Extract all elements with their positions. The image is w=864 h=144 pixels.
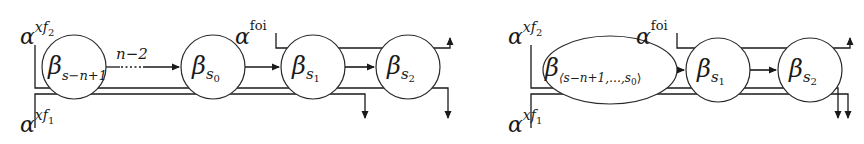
alpha-xf2-label: αxf2 xyxy=(20,19,54,49)
left-diagram: αxf2 αxf1 αfoi n−2 βs−n+1 βs0 βs1 βs2 xyxy=(20,18,450,137)
node-beta-s-n+1-to-s0 xyxy=(543,36,677,104)
alpha-foi-label: αfoi xyxy=(235,18,267,49)
edge-label-n-2: n−2 xyxy=(116,45,148,63)
alpha-xf1-label: αxf1 xyxy=(20,107,54,137)
alpha-xf2-label-right: αxf2 xyxy=(508,19,542,49)
diagram-canvas: αxf2 αxf1 αfoi n−2 βs−n+1 βs0 βs1 βs2 xyxy=(0,0,864,144)
right-diagram: αxf2 αxf1 αfoi β⟨s−n+1,…,s0⟩ βs1 βs2 xyxy=(508,18,850,137)
alpha-xf1-label-right: αxf1 xyxy=(508,107,542,137)
xf2-out-path xyxy=(432,88,448,118)
